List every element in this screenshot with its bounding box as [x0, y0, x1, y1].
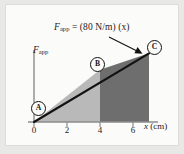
- equation-rhs: (80 N/m) (x): [80, 22, 130, 32]
- point-marker-c: C: [147, 40, 162, 55]
- equation-equals: =: [69, 22, 79, 32]
- x-axis-unit: (cm): [150, 121, 167, 131]
- point-marker-b: B: [90, 57, 105, 72]
- figure-panel: Fapp = (80 N/m) (x) Fapp x (cm) 0 2 4 6 …: [6, 5, 178, 145]
- equation-annotation: Fapp = (80 N/m) (x): [54, 22, 130, 32]
- x-axis-variable: x: [144, 121, 148, 131]
- x-tick-label-4: 4: [93, 125, 107, 135]
- x-axis-ticks: [34, 122, 133, 127]
- x-tick-label-0: 0: [27, 125, 41, 135]
- point-marker-a: A: [31, 101, 46, 116]
- y-axis-label: Fapp: [33, 45, 48, 55]
- y-axis-subscript: app: [39, 48, 49, 55]
- x-tick-label-2: 2: [60, 125, 74, 135]
- dark-shaded-region: [100, 53, 149, 122]
- x-tick-label-6: 6: [126, 125, 140, 135]
- annotation-arrow: [109, 37, 143, 54]
- equation-lhs-subscript: app: [60, 25, 70, 32]
- light-shaded-region: [34, 70, 100, 122]
- x-axis-label: x (cm): [144, 121, 167, 131]
